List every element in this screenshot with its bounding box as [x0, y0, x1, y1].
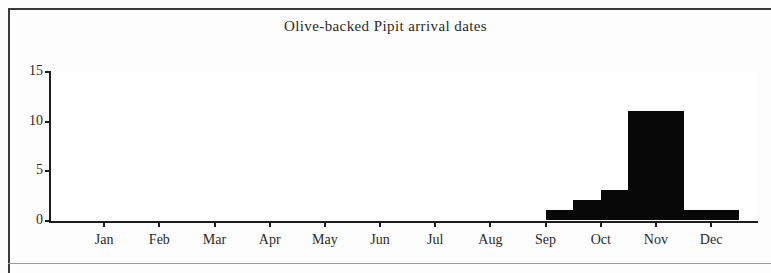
x-axis-tick — [379, 222, 381, 227]
x-axis-tick — [103, 222, 105, 227]
x-axis-month-label: Jul — [427, 232, 443, 248]
y-axis-tick-label: 5 — [36, 162, 43, 178]
chart-page: Olive-backed Pipit arrival dates 051015 … — [0, 0, 771, 273]
x-axis-month-label: Nov — [644, 232, 668, 248]
x-axis-tick — [214, 222, 216, 227]
chart-title: Olive-backed Pipit arrival dates — [0, 18, 771, 35]
x-axis-month-label: Oct — [591, 232, 611, 248]
x-axis-tick — [545, 222, 547, 227]
y-axis-tick-label: 15 — [29, 63, 43, 79]
x-axis-tick — [489, 222, 491, 227]
x-axis-tick — [324, 222, 326, 227]
x-axis-tick — [158, 222, 160, 227]
y-axis-tick — [45, 71, 51, 73]
histogram-bar — [711, 210, 739, 220]
x-axis-tick — [434, 222, 436, 227]
x-axis-tick — [600, 222, 602, 227]
x-axis-month-label: Dec — [700, 232, 723, 248]
x-axis-line — [49, 221, 758, 223]
y-axis-line — [49, 72, 51, 222]
x-axis-month-label: Jan — [95, 232, 114, 248]
histogram-bar — [656, 111, 684, 220]
histogram-bar — [628, 111, 656, 220]
histogram-bar — [684, 210, 712, 220]
y-axis-tick-label: 0 — [36, 212, 43, 228]
histogram-bar — [601, 190, 629, 220]
page-border-left — [8, 8, 10, 273]
x-axis-month-label: Jun — [370, 232, 389, 248]
y-axis-tick — [45, 220, 51, 222]
x-axis-month-label: Mar — [203, 232, 226, 248]
x-axis-month-label: May — [312, 232, 338, 248]
plot-area: 051015 JanFebMarAprMayJunJulAugSepOctNov… — [49, 72, 758, 221]
page-border-top — [8, 8, 771, 10]
x-axis-tick — [269, 222, 271, 227]
histogram-bar — [546, 210, 574, 220]
x-axis-month-label: Feb — [149, 232, 170, 248]
x-axis-month-label: Sep — [535, 232, 556, 248]
x-axis-tick — [710, 222, 712, 227]
x-axis-month-label: Apr — [259, 232, 281, 248]
y-axis-tick-label: 10 — [29, 113, 43, 129]
y-axis-tick — [45, 121, 51, 123]
x-axis-tick — [655, 222, 657, 227]
page-border-bottom — [8, 263, 771, 264]
histogram-bar — [573, 200, 601, 220]
x-axis-month-label: Aug — [478, 232, 502, 248]
y-axis-tick — [45, 170, 51, 172]
